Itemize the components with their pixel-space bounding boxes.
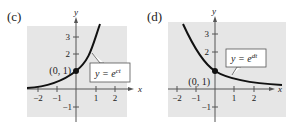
panel-label-c: (c) xyxy=(7,9,21,25)
chart-panel-d: −2 −1 1 2 3 2 −1 x y (0, 1) y = edt (d) xyxy=(144,0,288,127)
y-tick-label: 2 xyxy=(205,47,210,57)
y-tick-label: −1 xyxy=(201,102,211,112)
x-axis-label: x xyxy=(137,84,142,94)
panel-label-d: (d) xyxy=(147,9,162,25)
point-label: (0, 1) xyxy=(188,76,210,88)
y-tick-label: −1 xyxy=(62,102,72,112)
chart-c-svg: −2 −1 1 2 3 2 −1 x y (0, 1) y = ect xyxy=(0,0,144,127)
x-tick-label: 1 xyxy=(232,93,237,103)
y-tick-label: 2 xyxy=(66,49,71,59)
point-marker xyxy=(73,68,79,74)
x-axis-arrow-icon xyxy=(128,87,134,91)
x-tick-label: 2 xyxy=(252,93,257,103)
y-axis-arrow-icon xyxy=(74,17,78,23)
chart-d-svg: −2 −1 1 2 3 2 −1 x y (0, 1) y = edt xyxy=(144,0,288,127)
point-label: (0, 1) xyxy=(49,65,71,77)
y-axis-arrow-icon xyxy=(213,16,217,22)
x-tick-label: −1 xyxy=(52,93,62,103)
point-marker xyxy=(212,68,218,74)
x-tick-label: −2 xyxy=(172,93,182,103)
y-tick-label: 3 xyxy=(205,29,210,39)
y-tick-label: 3 xyxy=(66,32,71,42)
y-axis-label: y xyxy=(211,6,216,16)
y-axis-label: y xyxy=(73,7,78,17)
plot-background xyxy=(168,22,286,117)
x-tick-label: 1 xyxy=(94,93,99,103)
x-tick-label: 2 xyxy=(113,93,118,103)
chart-panel-c: −2 −1 1 2 3 2 −1 x y (0, 1) y = ect (c) xyxy=(0,0,144,127)
x-tick-label: −2 xyxy=(33,93,43,103)
x-tick-label: −1 xyxy=(191,93,201,103)
